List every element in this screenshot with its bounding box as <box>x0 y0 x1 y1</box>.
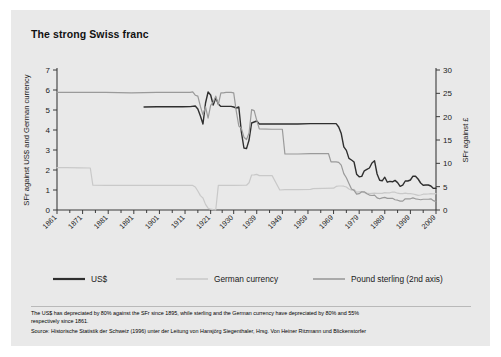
x-tick-label: 1881 <box>92 213 110 231</box>
y2-tick-label: 20 <box>443 113 452 122</box>
x-tick-label: 1891 <box>117 213 135 231</box>
swiss-franc-line-chart: 0123456705101520253018611871188118911901… <box>11 10 490 310</box>
chart-card: The strong Swiss franc 01234567051015202… <box>11 10 490 346</box>
legend-label: Pound sterling (2nd axis) <box>351 274 443 284</box>
x-tick-label: 1930 <box>217 213 235 231</box>
y2-axis-title: SFr against £ <box>461 117 470 163</box>
x-tick-label: 1979 <box>343 213 361 231</box>
legend-label: German currency <box>214 274 279 284</box>
y-tick-label: 1 <box>46 186 51 195</box>
y-tick-label: 2 <box>46 166 51 175</box>
x-tick-label: 1969 <box>317 213 335 231</box>
y-axis-title: SFr against US$ and German currency <box>22 74 31 205</box>
y2-tick-label: 15 <box>443 136 452 145</box>
y2-tick-label: 25 <box>443 89 452 98</box>
x-tick-label: 1949 <box>266 213 284 231</box>
footnote-line-1: The US$ has depreciated by 80% against t… <box>31 310 473 316</box>
series-line <box>57 168 436 210</box>
y2-tick-label: 5 <box>443 183 448 192</box>
x-tick-label: 1871 <box>66 213 84 231</box>
x-tick-label: 1921 <box>194 213 212 231</box>
chart-legend: US$German currencyPound sterling (2nd ax… <box>31 268 471 290</box>
y-tick-label: 3 <box>46 146 51 155</box>
x-tick-label: 1959 <box>292 213 310 231</box>
footnote-source: Source: Historische Statistik der Schwei… <box>31 328 473 334</box>
y-tick-label: 0 <box>46 206 51 215</box>
x-tick-label: 1999 <box>394 213 412 231</box>
y2-tick-label: 10 <box>443 159 452 168</box>
x-tick-label: 1901 <box>143 213 161 231</box>
y2-tick-label: 0 <box>443 206 448 215</box>
x-tick-label: 1861 <box>41 213 59 231</box>
y-tick-label: 4 <box>46 126 51 135</box>
x-tick-label: 2009 <box>420 213 438 231</box>
footnote: The US$ has depreciated by 80% against t… <box>31 310 473 334</box>
x-tick-label: 1989 <box>368 213 386 231</box>
x-tick-label: 1911 <box>169 213 186 230</box>
chart-series <box>57 92 436 210</box>
y-tick-label: 5 <box>46 106 51 115</box>
x-tick-label: 1939 <box>240 213 258 231</box>
y2-tick-label: 30 <box>443 66 452 75</box>
y-tick-label: 7 <box>46 66 51 75</box>
y-tick-label: 6 <box>46 86 51 95</box>
legend-label: US$ <box>91 274 108 284</box>
series-line <box>144 92 436 188</box>
chart-plot-area: 0123456705101520253018611871188118911901… <box>11 10 490 346</box>
footnote-line-2: respectively since 1861. <box>31 318 473 324</box>
